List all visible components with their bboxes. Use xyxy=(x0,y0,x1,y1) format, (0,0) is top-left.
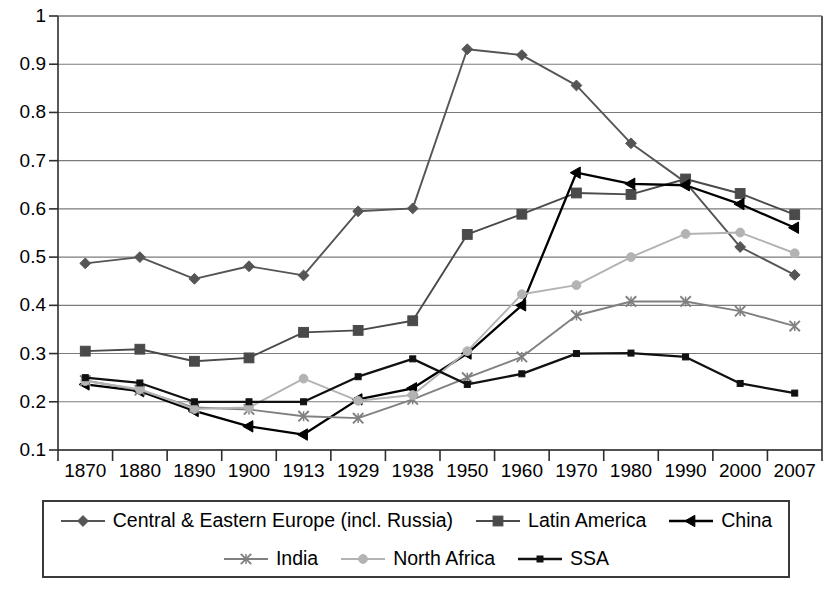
legend-label: India xyxy=(276,549,318,569)
chart-page: 10.90.80.70.60.50.40.30.20.1 18701880189… xyxy=(0,0,833,597)
y-axis-tick-label: 1 xyxy=(0,6,46,25)
y-axis-tick-label: 0.3 xyxy=(0,344,46,363)
x-axis-tick-label: 1950 xyxy=(440,461,495,480)
legend-row-2: IndiaNorth AfricaSSA xyxy=(44,540,788,578)
data-series-layer xyxy=(79,44,800,440)
legend-marker-cross xyxy=(223,550,269,568)
legend-marker-square xyxy=(475,512,521,530)
x-axis-tick-label: 1913 xyxy=(276,461,331,480)
line-chart: 10.90.80.70.60.50.40.30.20.1 18701880189… xyxy=(0,0,833,470)
y-axis-tick-label: 0.9 xyxy=(0,54,46,73)
legend-item[interactable]: Latin America xyxy=(475,511,646,531)
y-axis-tick-label: 0.4 xyxy=(0,295,46,314)
x-axis-tick-label: 1938 xyxy=(385,461,440,480)
legend-swatch-icon xyxy=(475,512,521,530)
legend-item[interactable]: China xyxy=(668,511,772,531)
y-axis-tick-label: 0.6 xyxy=(0,199,46,218)
legend-swatch-icon xyxy=(668,512,714,530)
x-axis-tick-label: 1970 xyxy=(549,461,604,480)
x-axis-tick-label: 1870 xyxy=(58,461,113,480)
legend-label: Central & Eastern Europe (incl. Russia) xyxy=(113,511,453,531)
legend-marker-diamond xyxy=(60,512,106,530)
y-axis-tick-label: 0.8 xyxy=(0,102,46,121)
series-4 xyxy=(81,228,799,413)
y-axis-tick-label: 0.2 xyxy=(0,392,46,411)
x-axis-tick-label: 1900 xyxy=(222,461,277,480)
y-axis-ticks xyxy=(49,16,58,450)
series-0 xyxy=(80,44,800,284)
legend-item[interactable]: SSA xyxy=(517,549,609,569)
legend-marker-small-square xyxy=(517,550,563,568)
y-axis-tick-label: 0.7 xyxy=(0,151,46,170)
x-axis-tick-label: 1890 xyxy=(167,461,222,480)
legend-swatch-icon xyxy=(517,550,563,568)
legend-swatch-icon xyxy=(223,550,269,568)
x-axis-tick-label: 1990 xyxy=(658,461,713,480)
legend-label: China xyxy=(721,511,772,531)
legend-swatch-icon xyxy=(340,550,386,568)
legend-item[interactable]: Central & Eastern Europe (incl. Russia) xyxy=(60,511,453,531)
chart-legend: Central & Eastern Europe (incl. Russia)L… xyxy=(42,500,790,578)
legend-item[interactable]: India xyxy=(223,549,318,569)
y-axis-tick-label: 0.1 xyxy=(0,440,46,459)
legend-label: Latin America xyxy=(528,511,646,531)
legend-label: North Africa xyxy=(393,549,495,569)
x-axis-tick-label: 2007 xyxy=(767,461,822,480)
x-axis-tick-label: 1880 xyxy=(113,461,168,480)
x-axis-tick-label: 1960 xyxy=(495,461,550,480)
legend-row-1: Central & Eastern Europe (incl. Russia)L… xyxy=(44,502,788,540)
x-axis-tick-label: 1980 xyxy=(604,461,659,480)
series-1 xyxy=(80,174,799,366)
legend-label: SSA xyxy=(570,549,609,569)
legend-marker-circle-light xyxy=(340,550,386,568)
legend-item[interactable]: North Africa xyxy=(340,549,495,569)
x-axis-tick-label: 1929 xyxy=(331,461,386,480)
plot-canvas xyxy=(0,0,833,470)
y-axis-tick-label: 0.5 xyxy=(0,247,46,266)
legend-marker-triangle xyxy=(668,512,714,530)
legend-swatch-icon xyxy=(60,512,106,530)
x-axis-tick-label: 2000 xyxy=(713,461,768,480)
